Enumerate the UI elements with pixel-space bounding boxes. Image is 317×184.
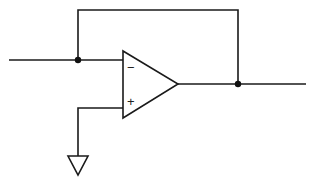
input-junction-dot bbox=[75, 57, 81, 63]
non-inverting-input-label: + bbox=[127, 94, 135, 109]
inverting-input-label: − bbox=[127, 60, 135, 75]
ground-wire bbox=[78, 108, 123, 156]
opamp-schematic: − + bbox=[0, 0, 317, 184]
ground-icon bbox=[68, 156, 88, 175]
output-junction-dot bbox=[235, 81, 241, 87]
